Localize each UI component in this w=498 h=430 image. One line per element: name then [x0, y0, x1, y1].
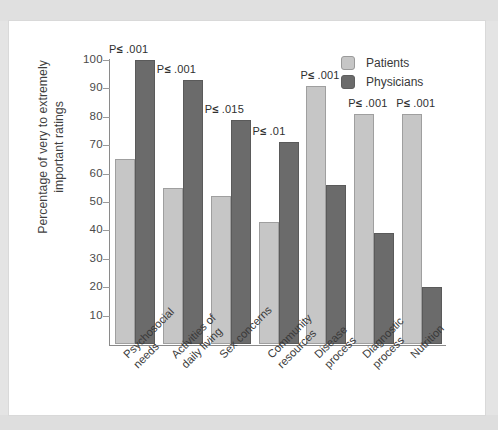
- y-axis-tick-label-wrap: 90: [59, 81, 103, 95]
- y-axis-tick-label-wrap: 100: [59, 53, 103, 67]
- y-axis-title-line1: Percentage of very to extremely: [36, 60, 50, 234]
- y-axis-tick-label-wrap: 10: [59, 309, 103, 323]
- pvalue-label: P≤ .015: [205, 103, 244, 115]
- scanned-page-frame: Percentage of very to extremely importan…: [0, 0, 498, 430]
- y-axis-tick: [103, 202, 110, 203]
- y-axis-tick-label: 20: [69, 280, 103, 292]
- bar-physicians: [326, 185, 346, 344]
- pvalue-label: P≤ .01: [253, 125, 286, 137]
- y-axis-tick-label: 30: [69, 252, 103, 264]
- legend-swatch-physicians-icon: [341, 75, 355, 89]
- y-axis-tick-label-wrap: 70: [59, 138, 103, 152]
- y-axis-tick-label: 100: [69, 53, 103, 65]
- figure-paper: Percentage of very to extremely importan…: [9, 21, 485, 415]
- bar-chart: Percentage of very to extremely importan…: [9, 21, 485, 415]
- y-axis-tick: [103, 145, 110, 146]
- y-axis-tick: [103, 259, 110, 260]
- legend-item-patients: Patients: [341, 53, 423, 72]
- y-axis-tick-label: 60: [69, 167, 103, 179]
- y-axis-tick: [103, 88, 110, 89]
- y-axis-tick-label: 80: [69, 110, 103, 122]
- pvalue-label: P≤ .001: [300, 69, 339, 81]
- plot-area: [110, 60, 445, 344]
- page-margin-left: [0, 21, 9, 415]
- y-axis-tick: [103, 230, 110, 231]
- legend-label-physicians: Physicians: [366, 75, 423, 89]
- page-margin-top: [0, 0, 498, 21]
- bar-patients: [402, 114, 422, 344]
- legend-item-physicians: Physicians: [341, 72, 423, 91]
- y-axis-tick-label-wrap: 20: [59, 280, 103, 294]
- y-axis-tick: [103, 316, 110, 317]
- y-axis-tick: [103, 60, 110, 61]
- y-axis-tick-label-wrap: 30: [59, 252, 103, 266]
- page-margin-right: [485, 21, 498, 415]
- y-axis-tick-label: 10: [69, 309, 103, 321]
- bar-physicians: [279, 142, 299, 344]
- pvalue-label: P≤ .001: [109, 43, 148, 55]
- y-axis-tick: [103, 174, 110, 175]
- legend-swatch-patients-icon: [341, 56, 355, 70]
- y-axis-tick-label-wrap: 80: [59, 110, 103, 124]
- bar-patients: [115, 159, 135, 344]
- y-axis-tick-label: 90: [69, 81, 103, 93]
- pvalue-label: P≤ .001: [157, 63, 196, 75]
- y-axis-tick-label: 50: [69, 195, 103, 207]
- y-axis-tick-label: 40: [69, 223, 103, 235]
- pvalue-label: P≤ .001: [396, 97, 435, 109]
- bar-physicians: [231, 120, 251, 344]
- bar-patients: [306, 86, 326, 344]
- page-margin-bottom: [0, 415, 498, 430]
- bar-patients: [354, 114, 374, 344]
- bar-physicians: [183, 80, 203, 344]
- legend-label-patients: Patients: [366, 56, 409, 70]
- bar-physicians: [135, 60, 155, 344]
- legend: Patients Physicians: [341, 53, 423, 91]
- y-axis-tick: [103, 287, 110, 288]
- y-axis-tick-label-wrap: 50: [59, 195, 103, 209]
- y-axis-tick-label-wrap: 60: [59, 167, 103, 181]
- pvalue-label: P≤ .001: [348, 97, 387, 109]
- y-axis-tick: [103, 117, 110, 118]
- y-axis-tick-label-wrap: 40: [59, 223, 103, 237]
- y-axis-tick-label: 70: [69, 138, 103, 150]
